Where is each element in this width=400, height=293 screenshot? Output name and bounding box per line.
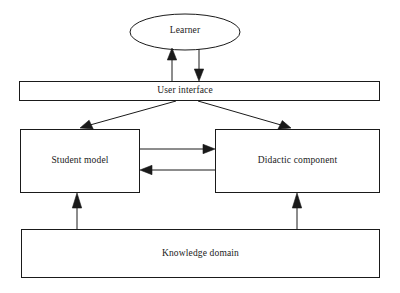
node-knowledge-domain-label: Knowledge domain [21,249,380,259]
edge-student-to-didactic [140,144,215,153]
node-user-interface-label: User interface [125,86,245,96]
edge-knowledge-to-didactic-component [292,193,301,229]
edge-ui-to-student-model [80,101,176,129]
node-didactic-component-label: Didactic component [215,156,380,166]
edge-didactic-to-student [140,165,215,174]
edge-ui-to-didactic-component [198,101,291,129]
node-student-model-label: Student model [20,156,140,166]
node-learner-label: Learner [130,26,240,36]
diagram-canvas: Learner User interface Student model Did… [0,0,400,293]
edge-learner-to-ui [194,49,203,81]
edge-ui-to-learner [167,48,176,81]
edge-knowledge-to-student-model [72,193,81,229]
